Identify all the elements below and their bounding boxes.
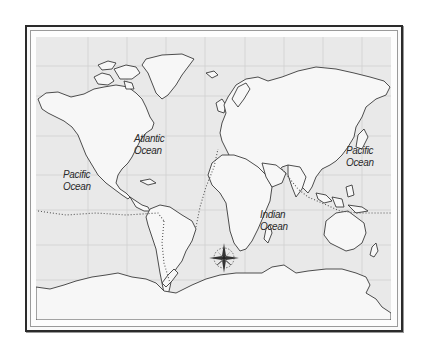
compass-rose xyxy=(209,243,239,273)
label-indian-ocean: Indian Ocean xyxy=(260,208,288,232)
antarctica xyxy=(36,265,391,320)
greenland xyxy=(142,54,194,99)
label-pacific-ocean-east: Pacific Ocean xyxy=(346,144,374,168)
world-map: Atlantic Ocean Pacific Ocean Indian Ocea… xyxy=(36,37,391,320)
label-atlantic-ocean: Atlantic Ocean xyxy=(134,132,164,156)
label-pacific-ocean-west: Pacific Ocean xyxy=(63,168,91,192)
